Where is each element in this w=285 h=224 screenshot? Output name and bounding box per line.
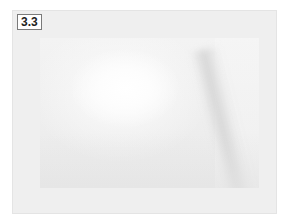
- figure-photo: [40, 38, 259, 188]
- photo-lower-haze: [40, 133, 259, 188]
- figure-number-label: 3.3: [17, 14, 42, 30]
- figure-panel: 3.3: [12, 10, 277, 214]
